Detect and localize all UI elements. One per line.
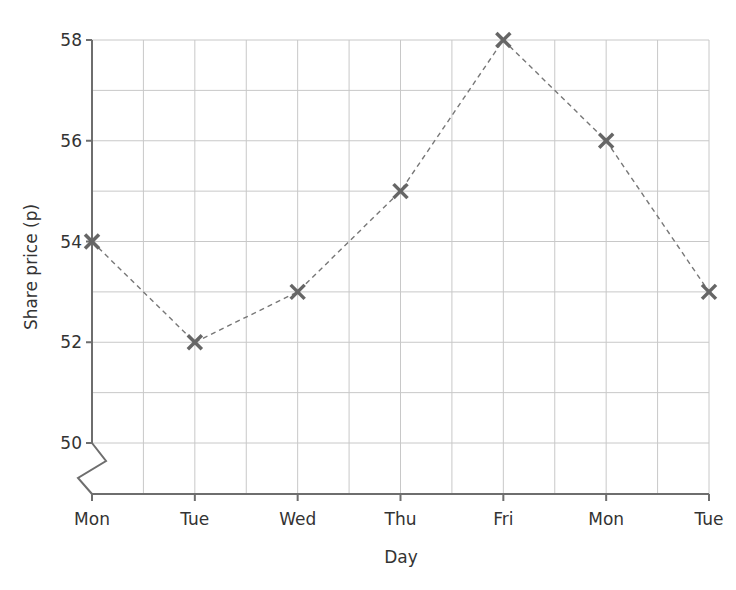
x-tick-label: Tue <box>693 509 723 529</box>
axes <box>78 40 709 494</box>
x-tick-label: Wed <box>279 509 316 529</box>
share-price-chart: 5052545658 MonTueWedThuFriMonTue Day Sha… <box>0 0 736 590</box>
x-tick-label: Thu <box>384 509 417 529</box>
y-tick-label: 54 <box>60 232 82 252</box>
y-axis-title: Share price (p) <box>21 204 41 330</box>
y-axis-ticks: 5052545658 <box>60 30 92 453</box>
x-axis-title: Day <box>384 547 418 567</box>
x-tick-label: Mon <box>74 509 110 529</box>
x-tick-label: Mon <box>588 509 624 529</box>
y-tick-label: 58 <box>60 30 82 50</box>
x-tick-label: Fri <box>493 509 513 529</box>
x-axis-ticks: MonTueWedThuFriMonTue <box>74 494 723 529</box>
y-tick-label: 52 <box>60 332 82 352</box>
x-tick-label: Tue <box>179 509 209 529</box>
y-tick-label: 50 <box>60 433 82 453</box>
y-tick-label: 56 <box>60 131 82 151</box>
y-axis-line-with-break <box>78 40 106 494</box>
grid-lines <box>92 40 709 494</box>
